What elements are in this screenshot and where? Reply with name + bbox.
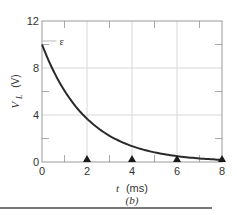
triangle-marker-icon (83, 155, 91, 162)
x-tick-label: 8 (219, 165, 225, 177)
x-axis-var: t (116, 182, 120, 194)
y-axis-unit: (V) (10, 74, 21, 87)
y-tick-label: 12 (27, 15, 39, 27)
x-axis-label: t (ms) (116, 182, 148, 194)
y-tick-label: 4 (33, 109, 39, 121)
x-tick-label: 4 (129, 165, 135, 177)
y-tick-labels: 04812 (27, 15, 39, 168)
chart: 02468 04812 ε t (ms) V L (V) (b) (0, 0, 237, 215)
y-axis-var: V (9, 101, 21, 109)
y-tick-label: 0 (33, 156, 39, 168)
triangle-marker-icon (218, 155, 226, 162)
x-tick-label: 2 (84, 165, 90, 177)
x-tick-label: 0 (39, 165, 45, 177)
grid-lines (42, 21, 222, 162)
y-axis-label: V L (V) (9, 74, 24, 108)
y-tick-label: 8 (33, 62, 39, 74)
x-tick-label: 6 (174, 165, 180, 177)
emf-annotation: ε (60, 35, 65, 47)
x-axis-unit: (ms) (126, 182, 148, 194)
figure-caption: (b) (126, 194, 139, 207)
triangle-marker-icon (128, 155, 136, 162)
x-tick-labels: 02468 (39, 165, 225, 177)
y-axis-subscript: L (15, 94, 24, 100)
